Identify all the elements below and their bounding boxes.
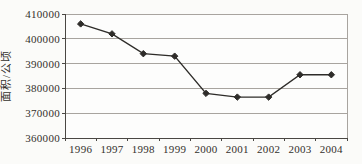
x-tick-label: 2000 xyxy=(194,143,217,155)
y-tick-label: 410000 xyxy=(25,8,60,20)
x-tick-label: 1999 xyxy=(163,143,186,155)
y-tick-label: 370000 xyxy=(25,107,60,119)
x-axis-tick-labels: 199619971998199920002001200220032004 xyxy=(69,143,343,155)
line-chart: 360000370000380000390000400000410000 199… xyxy=(0,0,362,164)
x-tick-label: 1996 xyxy=(69,143,92,155)
x-tick-label: 2003 xyxy=(288,143,311,155)
x-tick-label: 2001 xyxy=(226,143,249,155)
x-tick-label: 1997 xyxy=(100,143,123,155)
y-tick-label: 390000 xyxy=(25,58,60,70)
y-tick-label: 400000 xyxy=(25,33,60,45)
y-axis-title: 面积/公顷 xyxy=(0,50,12,102)
x-tick-label: 2004 xyxy=(320,143,343,155)
x-tick-label: 1998 xyxy=(132,143,155,155)
y-tick-label: 380000 xyxy=(25,82,60,94)
chart-canvas: 360000370000380000390000400000410000 199… xyxy=(0,0,362,164)
x-tick-label: 2002 xyxy=(257,143,280,155)
y-tick-label: 360000 xyxy=(25,132,60,144)
